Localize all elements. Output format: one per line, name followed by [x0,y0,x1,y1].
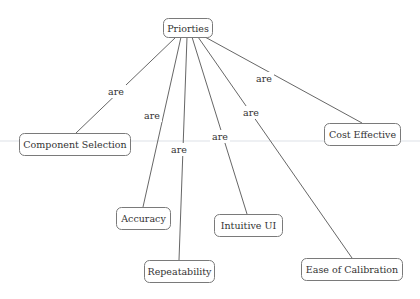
edge-label: are [108,86,124,97]
edge-cost-effective: are [205,37,362,123]
node-priorities[interactable]: Priorties [164,19,213,38]
edge-line [192,37,247,214]
node-component-selection[interactable]: Component Selection [20,134,131,156]
node-intuitive-ui[interactable]: Intuitive UI [215,215,283,237]
nodes: PriortiesComponent SelectionAccuracyRepe… [20,19,403,283]
edge-label: are [171,144,187,155]
edge-label: are [212,131,228,142]
node-label: Intuitive UI [221,220,277,231]
node-label: Accuracy [120,213,166,224]
node-label: Component Selection [23,139,126,150]
edge-line [205,37,362,123]
node-accuracy[interactable]: Accuracy [117,208,171,230]
node-label: Ease of Calibration [306,264,398,275]
edge-label: are [243,107,259,118]
node-label: Cost Effective [329,129,397,140]
edge-intuitive-ui: are [192,37,247,214]
node-label: Priorties [167,23,209,34]
edge-accuracy: are [142,37,181,207]
edge-repeatability: are [169,37,189,260]
edge-label: are [256,73,272,84]
concept-map: areareareareareare PriortiesComponent Se… [0,0,420,299]
edge-label: are [144,110,160,121]
node-cost-effective[interactable]: Cost Effective [325,124,401,146]
node-ease-of-calibration[interactable]: Ease of Calibration [302,259,403,281]
node-label: Repeatability [147,266,212,277]
node-repeatability[interactable]: Repeatability [145,261,215,283]
